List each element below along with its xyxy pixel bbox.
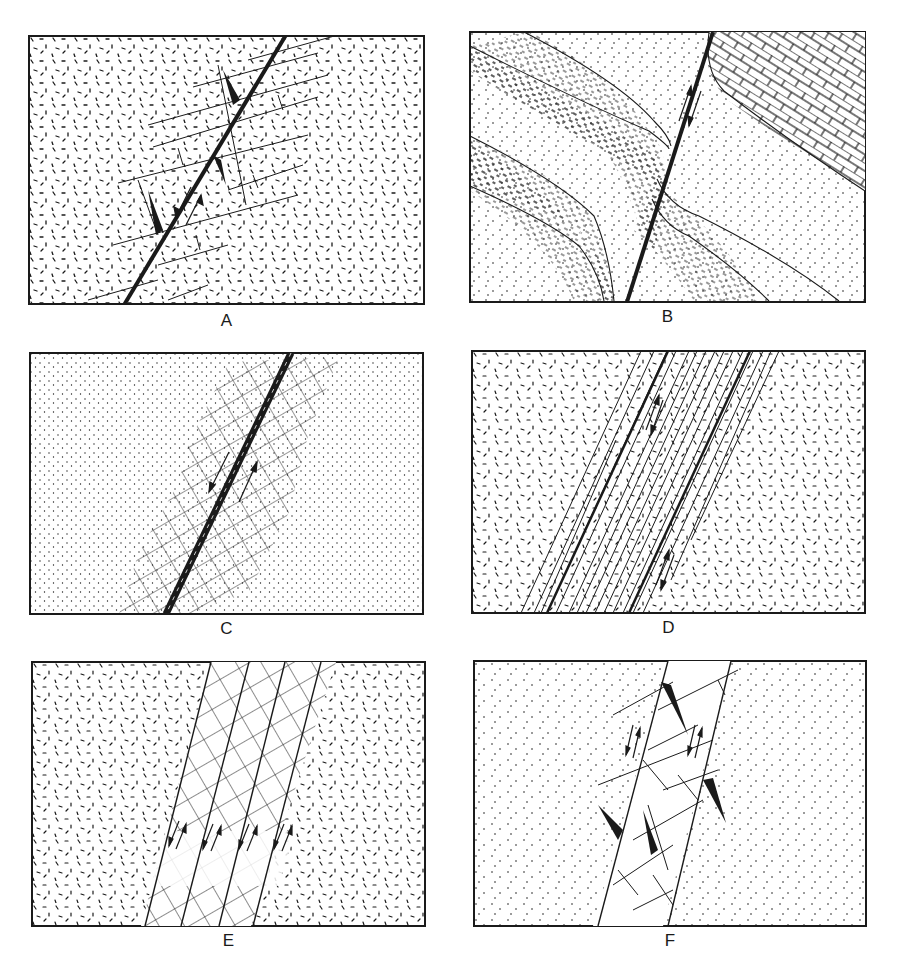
- panel-label-b: B: [469, 307, 866, 327]
- diagram-a: [28, 35, 425, 305]
- panel-a: A: [28, 35, 425, 330]
- diagram-d: [471, 350, 866, 614]
- diagram-e: [31, 661, 426, 927]
- panel-e: E: [31, 661, 426, 956]
- panel-b: B: [469, 31, 866, 328]
- panel-label-f: F: [473, 931, 867, 951]
- panel-f: F: [473, 660, 867, 956]
- diagram-b: [469, 31, 866, 303]
- diagram-c: [29, 352, 424, 615]
- panel-c: C: [29, 352, 424, 642]
- panel-d: D: [471, 350, 866, 642]
- panel-label-e: E: [31, 931, 426, 951]
- diagram-f: [473, 660, 867, 927]
- panel-label-a: A: [28, 311, 425, 331]
- panel-label-c: C: [29, 619, 424, 639]
- panel-label-d: D: [471, 618, 866, 638]
